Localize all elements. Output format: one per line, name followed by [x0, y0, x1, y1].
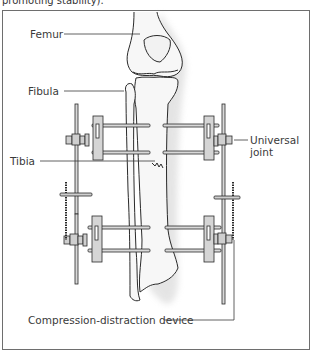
- label-universal-joint-line2: joint: [250, 146, 273, 158]
- label-femur: Femur: [30, 28, 63, 40]
- label-tibia: Tibia: [10, 155, 35, 167]
- label-universal-joint-line1: Universal: [250, 134, 299, 146]
- label-compression-distraction-device: Compression-distraction device: [28, 314, 194, 326]
- left-fixator: [60, 104, 103, 284]
- right-fixator: [204, 104, 240, 304]
- label-fibula: Fibula: [28, 85, 59, 97]
- femur-bone: [127, 12, 182, 77]
